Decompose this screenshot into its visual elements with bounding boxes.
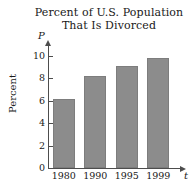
y-axis-tick-label: 2 xyxy=(23,141,45,151)
x-axis-tick-label: 1980 xyxy=(48,171,80,181)
y-axis-tick-label: 0 xyxy=(23,163,45,173)
plot-area xyxy=(48,44,174,168)
y-axis-tick-label: 10 xyxy=(23,51,45,61)
x-axis-line xyxy=(48,168,181,169)
x-axis-tick-label: 1999 xyxy=(142,171,174,181)
y-axis-variable-label: P xyxy=(38,30,45,41)
y-axis-tick-label: 4 xyxy=(23,118,45,128)
y-axis-tick-label: 8 xyxy=(23,73,45,83)
x-axis-tick-label: 1995 xyxy=(111,171,143,181)
x-axis-variable-label: t xyxy=(184,170,188,181)
chart-figure: Percent of U.S. Population That Is Divor… xyxy=(0,0,196,193)
chart-title-line-2: That Is Divorced xyxy=(26,19,192,32)
bar xyxy=(147,58,169,168)
y-axis-title: Percent xyxy=(7,64,18,124)
chart-title-line-1: Percent of U.S. Population xyxy=(26,6,192,19)
bar xyxy=(116,66,138,168)
chart-title: Percent of U.S. Population That Is Divor… xyxy=(26,6,192,32)
y-axis-tick-label: 6 xyxy=(23,96,45,106)
bar xyxy=(53,99,75,168)
x-axis-tick-label: 1990 xyxy=(79,171,111,181)
bar xyxy=(84,76,106,168)
y-axis-tick xyxy=(49,168,53,169)
